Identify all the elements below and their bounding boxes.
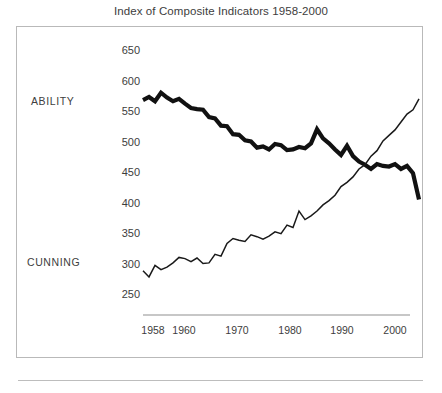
x-axis-tick-1970: 1970 [215, 324, 259, 336]
y-axis-tick-650: 650 [106, 44, 140, 56]
chart-title: Index of Composite Indicators 1958-2000 [0, 5, 442, 17]
x-axis-tick-1960: 1960 [162, 324, 206, 336]
x-axis-tick-1990: 1990 [320, 324, 364, 336]
y-axis-tick-300: 300 [106, 258, 140, 270]
y-axis-tick-450: 450 [106, 166, 140, 178]
y-axis-tick-500: 500 [106, 136, 140, 148]
y-axis-tick-600: 600 [106, 75, 140, 87]
x-axis-tick-1980: 1980 [268, 324, 312, 336]
y-axis-tick-250: 250 [106, 288, 140, 300]
series-label-ability: ABILITY [31, 95, 74, 107]
chart-figure: Index of Composite Indicators 1958-2000 … [0, 0, 442, 393]
series-label-cunning: CUNNING [27, 256, 80, 268]
x-axis-tick-2000: 2000 [373, 324, 417, 336]
y-axis-tick-350: 350 [106, 227, 140, 239]
page-bottom-rule [18, 380, 423, 381]
plot-frame [16, 26, 423, 358]
y-axis-tick-550: 550 [106, 105, 140, 117]
y-axis-tick-400: 400 [106, 197, 140, 209]
